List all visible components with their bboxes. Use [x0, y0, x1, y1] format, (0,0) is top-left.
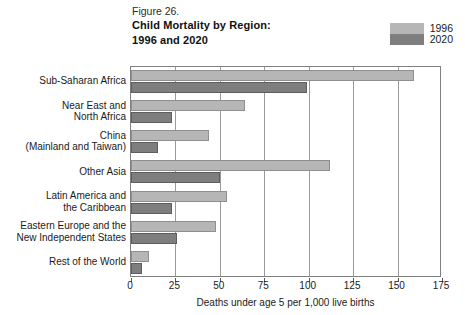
- bar-group: [131, 220, 442, 250]
- bar-1996: [131, 160, 330, 171]
- category-label: China(Mainland and Taiwan): [0, 130, 126, 153]
- category-label-line: Sub-Saharan Africa: [0, 75, 126, 87]
- x-tick-label-150: 150: [388, 280, 405, 291]
- category-label-line: (Mainland and Taiwan): [0, 141, 126, 153]
- bar-rows: [131, 67, 440, 276]
- x-tick-label-50: 50: [213, 280, 224, 291]
- x-axis-tick-labels: 0255075100125150175: [0, 280, 465, 294]
- x-tick-label-100: 100: [299, 280, 316, 291]
- bar-1996: [131, 100, 245, 111]
- bar-2020: [131, 263, 142, 274]
- bar-chart: Sub-Saharan AfricaNear East andNorth Afr…: [0, 0, 465, 315]
- bar-group: [131, 69, 442, 99]
- bar-2020: [131, 172, 220, 183]
- category-label: Near East andNorth Africa: [0, 100, 126, 123]
- category-label: Latin America andthe Caribbean: [0, 190, 126, 213]
- bar-2020: [131, 112, 172, 123]
- bar-2020: [131, 82, 307, 93]
- category-label-line: the Caribbean: [0, 202, 126, 214]
- category-label-line: North Africa: [0, 111, 126, 123]
- bar-1996: [131, 70, 414, 81]
- category-label-line: Near East and: [0, 100, 126, 112]
- bar-2020: [131, 142, 158, 153]
- bar-2020: [131, 233, 177, 244]
- category-label-line: Eastern Europe and the: [0, 220, 126, 232]
- x-axis-title: Deaths under age 5 per 1,000 live births: [130, 297, 441, 308]
- category-label: Eastern Europe and theNew Independent St…: [0, 220, 126, 243]
- x-tick-label-25: 25: [169, 280, 180, 291]
- bar-2020: [131, 203, 172, 214]
- bar-1996: [131, 130, 209, 141]
- category-label-line: New Independent States: [0, 232, 126, 244]
- category-axis-labels: Sub-Saharan AfricaNear East andNorth Afr…: [0, 66, 126, 277]
- category-label: Rest of the World: [0, 256, 126, 268]
- category-label-line: Other Asia: [0, 166, 126, 178]
- bar-1996: [131, 251, 149, 262]
- bar-group: [131, 190, 442, 220]
- x-tick-label-175: 175: [433, 280, 450, 291]
- category-label: Sub-Saharan Africa: [0, 75, 126, 87]
- category-label-line: China: [0, 130, 126, 142]
- plot-area: [130, 66, 441, 277]
- x-tick-label-125: 125: [344, 280, 361, 291]
- category-label: Other Asia: [0, 166, 126, 178]
- category-label-line: Latin America and: [0, 190, 126, 202]
- bar-group: [131, 250, 442, 280]
- bar-group: [131, 159, 442, 189]
- bar-group: [131, 99, 442, 129]
- x-tick-label-0: 0: [127, 280, 133, 291]
- bar-1996: [131, 221, 216, 232]
- bar-group: [131, 129, 442, 159]
- category-label-line: Rest of the World: [0, 256, 126, 268]
- bar-1996: [131, 191, 227, 202]
- x-tick-label-75: 75: [258, 280, 269, 291]
